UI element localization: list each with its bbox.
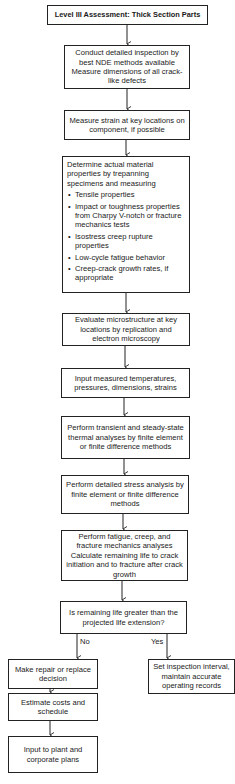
step-inspection-interval: Set inspection interval, maintain accura… — [148, 659, 235, 694]
title-box: Level III Assessment: Thick Section Part… — [47, 5, 208, 25]
bullet-fatigue: Low-cycle fatigue behavior — [67, 253, 185, 262]
bullet-creep-rupture: Isostress creep rupture properties — [67, 232, 185, 251]
material-bullet-list: Tensile properties Impact or toughness p… — [67, 190, 185, 285]
bullet-impact: Impact or toughness properties from Char… — [67, 202, 185, 230]
step-estimate-costs: Estimate costs and schedule — [8, 693, 98, 721]
step-repair-decision: Make repair or replace decision — [8, 659, 98, 689]
step-stress-analysis: Perform detailed stress analysis by fini… — [61, 475, 189, 514]
step-inspect: Conduct detailed inspection by best NDE … — [64, 45, 190, 89]
step-thermal-analysis: Perform transient and steady-state therm… — [61, 416, 190, 459]
step-strain: Measure strain at key locations on compo… — [64, 110, 190, 140]
yes-label: Yes — [151, 637, 163, 646]
bullet-tensile: Tensile properties — [67, 190, 185, 199]
no-label: No — [80, 637, 90, 646]
step-input-measurements: Input measured temperatures, pressures, … — [61, 368, 190, 398]
decision-box: Is remaining life greater than the proje… — [60, 601, 187, 634]
step-microstructure: Evaluate microstructure at key locations… — [62, 313, 190, 346]
step-material-properties: Determine actual material properties by … — [62, 156, 190, 293]
step-corporate-plans: Input to plant and corporate plans — [8, 736, 98, 773]
step-fatigue-analysis: Perform fatigue, creep, and fracture mec… — [61, 530, 188, 581]
bullet-crack-growth: Creep-crack growth rates, if appropriate — [67, 264, 185, 283]
material-intro: Determine actual material properties by … — [67, 160, 185, 188]
